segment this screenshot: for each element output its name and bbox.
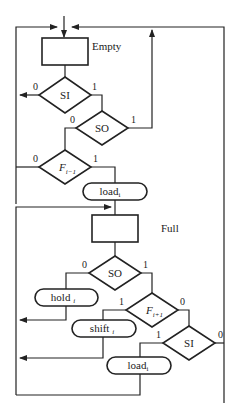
branch-0: 0 (82, 259, 87, 270)
empty-label: Empty (92, 40, 122, 52)
state-full: Full (92, 215, 179, 242)
si-top-label: SI (60, 89, 70, 101)
decision-si-bottom: SI 1 0 (156, 326, 223, 360)
so-bottom-label: SO (108, 267, 122, 279)
branch-0: 0 (180, 296, 185, 307)
decision-so-top: SO 0 1 (70, 111, 136, 145)
hold-label: hold i (51, 291, 75, 305)
action-load-bottom: loadi (107, 357, 171, 374)
state-empty: Empty (42, 38, 122, 65)
branch-0: 0 (70, 114, 75, 125)
so-top-label: SO (95, 122, 109, 134)
full-label: Full (161, 222, 179, 234)
branch-1: 1 (156, 329, 161, 340)
branch-1: 1 (93, 153, 98, 164)
branch-0: 0 (33, 153, 38, 164)
branch-1: 1 (131, 114, 136, 125)
decision-so-bottom: SO 0 1 (82, 256, 148, 290)
branch-1: 1 (119, 296, 124, 307)
decision-si-top: SI 0 1 (33, 77, 97, 113)
branch-0: 0 (33, 81, 38, 92)
si-bottom-label: SI (184, 337, 194, 349)
decision-f-prev: Fi−1 0 1 (33, 150, 98, 184)
action-load-top: loadi (83, 183, 147, 200)
load-bottom-label: loadi (128, 359, 149, 373)
action-shift: shift i (72, 320, 136, 337)
branch-1: 1 (92, 81, 97, 92)
full-state-box (92, 215, 138, 242)
branch-1: 1 (143, 259, 148, 270)
branch-0: 0 (218, 329, 223, 340)
shift-label: shift i (90, 322, 114, 336)
load-top-label: loadi (100, 185, 121, 199)
flowchart: Empty SI 0 1 SO 0 1 Fi−1 0 1 loadi Full … (0, 0, 239, 416)
empty-state-box (42, 38, 88, 65)
action-hold: hold i (35, 289, 98, 306)
